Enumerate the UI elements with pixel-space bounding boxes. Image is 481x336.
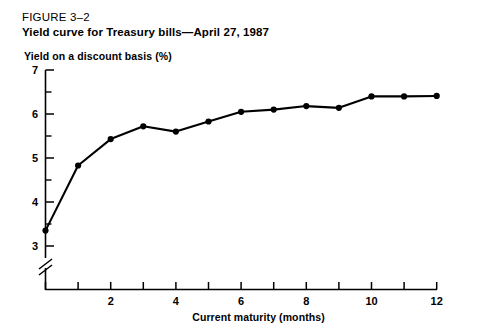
data-point bbox=[75, 162, 81, 168]
line-chart-plot: 7 6 5 4 3 2 4 6 8 10 12 bbox=[0, 0, 481, 336]
x-axis-title: Current maturity (months) bbox=[0, 311, 481, 323]
data-point bbox=[434, 93, 440, 99]
data-point bbox=[368, 93, 374, 99]
x-axis-ticks bbox=[46, 282, 437, 290]
data-point bbox=[173, 129, 179, 135]
data-point bbox=[42, 228, 48, 234]
x-tick-label-6: 6 bbox=[238, 295, 244, 307]
data-point bbox=[303, 103, 309, 109]
x-tick-label-10: 10 bbox=[365, 295, 377, 307]
y-tick-label-4: 4 bbox=[32, 196, 39, 208]
x-tick-label-4: 4 bbox=[173, 295, 180, 307]
figure-container: FIGURE 3–2 Yield curve for Treasury bill… bbox=[0, 0, 481, 336]
data-point bbox=[271, 107, 277, 113]
yield-curve-line bbox=[46, 96, 437, 231]
y-axis-ticks bbox=[46, 70, 55, 246]
y-tick-label-6: 6 bbox=[32, 108, 38, 120]
x-tick-label-2: 2 bbox=[108, 295, 114, 307]
x-tick-label-12: 12 bbox=[431, 295, 443, 307]
data-point bbox=[140, 123, 146, 129]
data-point bbox=[108, 136, 114, 142]
x-axis-title-text: Current maturity (months) bbox=[156, 311, 325, 323]
data-point bbox=[205, 118, 211, 124]
y-tick-label-3: 3 bbox=[32, 240, 38, 252]
x-tick-label-8: 8 bbox=[303, 295, 309, 307]
y-tick-label-7: 7 bbox=[32, 64, 38, 76]
y-tick-label-5: 5 bbox=[32, 152, 38, 164]
data-point bbox=[238, 109, 244, 115]
data-point bbox=[336, 105, 342, 111]
yield-curve-markers bbox=[42, 93, 439, 234]
data-point bbox=[401, 93, 407, 99]
